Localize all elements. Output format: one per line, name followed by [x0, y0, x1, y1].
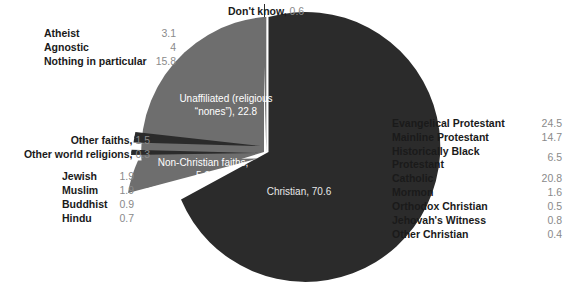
row-value: 4	[147, 41, 176, 55]
nonchristian-breakdown-list: Jewish 1.9 Muslim 1.9 Buddhist 0.9 Hindu…	[62, 170, 134, 226]
row-label: Orthodox Christian	[392, 200, 534, 214]
row-value: 3.1	[147, 27, 176, 41]
table-row: Catholic 20.8	[392, 172, 562, 186]
callout-dont-know-value: 0.6	[290, 5, 305, 17]
slice-label-christian: Christian, 70.6	[239, 186, 359, 199]
row-value: 0.4	[534, 228, 562, 242]
row-value: 1.6	[534, 186, 562, 200]
row-label: Catholic	[392, 172, 534, 186]
slice-label-nonchristian-line1: Non-Christian faiths,	[142, 157, 264, 170]
callout-other-world-religions-label: Other world religions,	[24, 148, 133, 160]
row-value: 0.5	[534, 200, 562, 214]
row-value: 0.7	[108, 212, 135, 226]
callout-dont-know: Don't know, 0.6	[228, 5, 304, 17]
unaffiliated-breakdown-list: Atheist 3.1 Agnostic 4 Nothing in partic…	[44, 27, 176, 69]
row-value: 1.9	[108, 170, 135, 184]
slice-label-unaffiliated-line1: Unaffiliated (religious	[160, 93, 292, 106]
pie-chart-figure: Don't know, 0.6 Other faiths, 1.5 Other …	[0, 0, 567, 289]
christian-breakdown-table: Evangelical Protestant 24.5 Mainline Pro…	[392, 117, 562, 242]
row-label: Muslim	[62, 184, 108, 198]
row-label: Nothing in particular	[44, 55, 147, 69]
row-label: Agnostic	[44, 41, 147, 55]
row-value: 6.5	[534, 145, 562, 172]
table-row: Mainline Protestant 14.7	[392, 131, 562, 145]
row-value: 20.8	[534, 172, 562, 186]
slice-label-unaffiliated-line2: “nones”), 22.8	[160, 106, 292, 119]
row-label: Hindu	[62, 212, 108, 226]
row-value: 24.5	[534, 117, 562, 131]
table-row: Agnostic 4	[44, 41, 176, 55]
slice-label-nonchristian-line2: 5.9	[142, 170, 264, 183]
callout-other-faiths-label: Other faiths,	[71, 134, 133, 146]
nonchristian-breakdown-table: Jewish 1.9 Muslim 1.9 Buddhist 0.9 Hindu…	[62, 170, 134, 226]
row-label: Evangelical Protestant	[392, 117, 534, 131]
row-label: Other Christian	[392, 228, 534, 242]
table-row: Buddhist 0.9	[62, 198, 134, 212]
row-value: 1.9	[108, 184, 135, 198]
row-value: 0.8	[534, 214, 562, 228]
slice-label-nonchristian-faiths: Non-Christian faiths, 5.9	[142, 157, 264, 182]
row-label: Jehovah's Witness	[392, 214, 534, 228]
table-row: Jehovah's Witness 0.8	[392, 214, 562, 228]
unaffiliated-breakdown-table: Atheist 3.1 Agnostic 4 Nothing in partic…	[44, 27, 176, 69]
christian-breakdown-body: Evangelical Protestant 24.5 Mainline Pro…	[392, 117, 562, 242]
callout-other-faiths-value: 1.5	[135, 134, 150, 146]
table-row: Atheist 3.1	[44, 27, 176, 41]
slice-label-unaffiliated: Unaffiliated (religious “nones”), 22.8	[160, 93, 292, 118]
table-row: Muslim 1.9	[62, 184, 134, 198]
table-row: Other Christian 0.4	[392, 228, 562, 242]
row-label: Jewish	[62, 170, 108, 184]
row-value: 14.7	[534, 131, 562, 145]
table-row: Orthodox Christian 0.5	[392, 200, 562, 214]
row-label: Historically Black Protestant	[392, 145, 534, 172]
callout-other-faiths: Other faiths, 1.5	[71, 134, 150, 146]
table-row: Jewish 1.9	[62, 170, 134, 184]
table-row: Historically Black Protestant 6.5	[392, 145, 562, 172]
callout-dont-know-label: Don't know,	[228, 5, 287, 17]
row-label: Atheist	[44, 27, 147, 41]
row-label: Mormon	[392, 186, 534, 200]
table-row: Evangelical Protestant 24.5	[392, 117, 562, 131]
row-label: Buddhist	[62, 198, 108, 212]
row-value: 0.9	[108, 198, 135, 212]
row-value: 15.8	[147, 55, 176, 69]
callout-other-world-religions: Other world religions, 0.3	[24, 148, 150, 160]
unaffiliated-breakdown-body: Atheist 3.1 Agnostic 4 Nothing in partic…	[44, 27, 176, 69]
nonchristian-breakdown-body: Jewish 1.9 Muslim 1.9 Buddhist 0.9 Hindu…	[62, 170, 134, 226]
table-row: Nothing in particular 15.8	[44, 55, 176, 69]
table-row: Hindu 0.7	[62, 212, 134, 226]
row-label: Mainline Protestant	[392, 131, 534, 145]
christian-breakdown-list: Evangelical Protestant 24.5 Mainline Pro…	[392, 117, 562, 242]
table-row: Mormon 1.6	[392, 186, 562, 200]
